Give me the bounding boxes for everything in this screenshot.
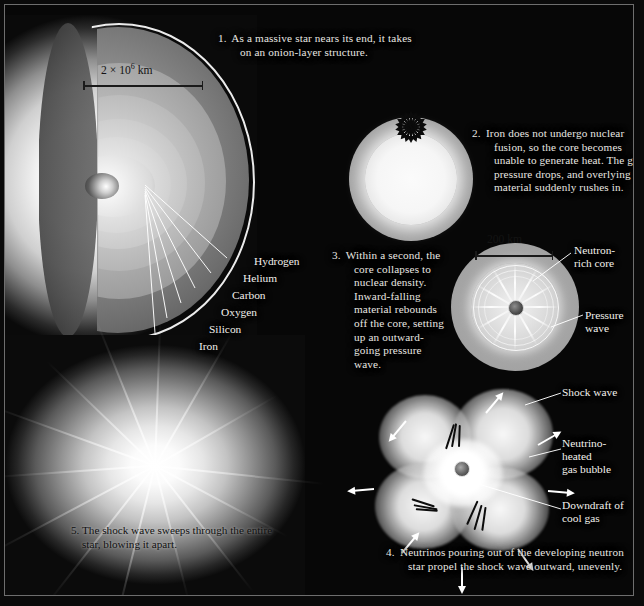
label-pressure-wave-line2: wave: [585, 322, 634, 335]
label-downdraft-line2: cool gas: [562, 512, 634, 525]
label-neutron-rich-core-line1: Neutron-: [574, 244, 634, 257]
label-neutrino-heated-gas-bubble: Neutrino- heated gas bubble: [562, 437, 634, 476]
label-downdraft-of-cool-gas: Downdraft of cool gas: [562, 499, 634, 525]
layer-label-oxygen: Oxygen: [221, 306, 257, 319]
figure-frame: 2 × 106 km: [4, 4, 634, 596]
neutrino-bubble-diagram: [365, 383, 561, 559]
caption-3-text: Within a second, the core collapses to n…: [346, 249, 444, 370]
layer-label-hydrogen: Hydrogen: [254, 255, 300, 268]
caption-3: 3. Within a second, the core collapses t…: [343, 249, 449, 371]
label-neutrino-bubble-line1: Neutrino-: [562, 437, 634, 450]
label-neutron-rich-core: Neutron- rich core: [574, 244, 634, 270]
label-pressure-wave: Pressure wave: [585, 309, 634, 335]
scale-bar-core-label: 200 km: [487, 233, 522, 246]
core-rebound-diagram: [451, 243, 579, 371]
caption-4: 4. Neutrinos pouring out of the developi…: [397, 546, 633, 573]
layer-label-silicon: Silicon: [209, 323, 241, 336]
scale-suffix: km: [135, 64, 153, 77]
layer-label-helium: Helium: [243, 272, 277, 285]
scale-prefix: 2 × 10: [101, 64, 131, 77]
core-collapse-diagram: [343, 111, 479, 247]
caption-2: 2. Iron does not undergo nuclear fusion,…: [483, 127, 634, 195]
developing-neutron-star: [454, 461, 470, 477]
label-neutrino-bubble-line3: gas bubble: [562, 463, 634, 476]
caption-2-text: Iron does not undergo nuclear fusion, so…: [486, 127, 634, 193]
label-neutrino-bubble-line2: heated: [562, 450, 634, 463]
label-neutron-rich-core-line2: rich core: [574, 257, 634, 270]
label-shock-wave-line1: Shock wave: [562, 386, 634, 399]
caption-5-number: 5.: [71, 524, 79, 536]
caption-1: 1. As a massive star nears its end, it t…: [229, 32, 425, 59]
caption-5: 5. The shock wave sweeps through the ent…: [71, 524, 277, 551]
neutron-rich-core-dot: [508, 300, 524, 316]
supernova-figure: 2 × 106 km: [0, 0, 644, 606]
layer-label-carbon: Carbon: [232, 289, 266, 302]
scale-bar-core: [475, 251, 553, 260]
layer-label-iron: Iron: [199, 340, 218, 353]
scale-bar-star-label: 2 × 106 km: [101, 62, 152, 77]
label-shock-wave: Shock wave: [562, 386, 634, 399]
caption-1-text: As a massive star nears its end, it take…: [231, 32, 411, 58]
label-downdraft-line1: Downdraft of: [562, 499, 634, 512]
label-pressure-wave-line1: Pressure: [585, 309, 634, 322]
caption-5-text: The shock wave sweeps through the entire…: [82, 524, 272, 550]
supernova-explosion-illustration: [4, 335, 305, 596]
collapse-hot-core: [365, 133, 457, 225]
scale-bar-star: [83, 81, 203, 90]
caption-4-text: Neutrinos pouring out of the developing …: [400, 546, 624, 572]
explosion-rays: [4, 335, 305, 596]
